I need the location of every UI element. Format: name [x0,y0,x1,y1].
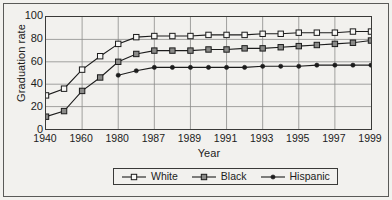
series-black [46,38,371,120]
chart-legend: WhiteBlackHispanic [113,168,338,185]
y-tick-label: 60 [15,56,43,67]
x-tick-label: 1987 [133,133,173,144]
legend-item-white[interactable]: White [121,171,178,182]
x-tick-label: 1980 [97,133,137,144]
legend-label: Hispanic [290,171,330,182]
legend-marker-icon [121,172,147,182]
y-tick-label: 40 [15,78,43,89]
x-tick-label: 1940 [25,133,65,144]
x-axis-label: Year [45,147,373,159]
x-tick-label: 1995 [278,133,318,144]
plot-area [45,16,372,130]
x-tick-label: 1993 [242,133,282,144]
y-tick-label: 80 [15,33,43,44]
x-tick-label: 1989 [169,133,209,144]
y-tick-label: 100 [15,10,43,21]
legend-item-hispanic[interactable]: Hispanic [260,171,330,182]
chart-canvas [46,17,371,129]
y-tick-label: 20 [15,101,43,112]
legend-marker-icon [260,172,286,182]
legend-label: White [151,171,178,182]
x-tick-label: 1991 [206,133,246,144]
legend-marker-icon [191,172,217,182]
legend-item-black[interactable]: Black [191,171,247,182]
legend-label: Black [221,171,247,182]
chart-figure: Graduation rate 020406080100 19401960198… [0,0,392,200]
x-tick-label: 1960 [61,133,101,144]
x-tick-label: 1999 [350,133,390,144]
x-tick-label: 1997 [314,133,354,144]
